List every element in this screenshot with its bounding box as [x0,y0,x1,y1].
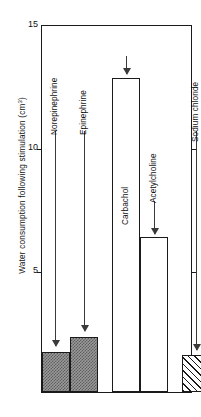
arrow-head [151,228,159,235]
bar-sodium-chloride [182,355,201,392]
arrow-norepinephrine [51,131,60,346]
y-axis-label-close: ) [18,97,27,100]
arrow-head [193,344,201,351]
y-axis-label-text: Water consumption following stimulation … [18,103,27,273]
bar-label-acetylcholine: Acetylcholine [149,153,158,203]
bar-label-carbachol: Carbachol [121,187,130,225]
arrow-head [123,68,131,75]
arrow-sodium-chloride [192,131,201,350]
arrow-carbachol [122,56,131,74]
y-tick-label-10: 10 [18,143,38,152]
y-axis-label-exponent: 3 [17,100,23,104]
bar-carbachol [112,78,140,392]
bar-label-sodium-chloride: Sodium chloride [191,82,200,142]
plot-area: Norepinephrine Epinephrine Carbachol Ace… [41,25,192,393]
arrow-head [52,340,60,347]
bar-acetylcholine [140,237,168,392]
arrow-acetylcholine [150,201,159,234]
y-tick-label-5: 5 [18,266,38,275]
bar-label-norepinephrine: Norepinephrine [50,78,59,135]
y-axis-label: Water consumption following stimulation … [17,35,28,335]
y-tick-label-15: 15 [18,20,38,29]
arrow-epinephrine [80,131,89,331]
bar-epinephrine [70,337,98,392]
tick-mark-left-10 [37,149,42,150]
tick-mark-left-5 [37,272,42,273]
bar-norepinephrine [42,352,70,392]
arrow-head [81,325,89,332]
arrow-shaft [196,131,197,350]
arrow-shaft [84,131,85,331]
bar-chart-figure: Water consumption following stimulation … [0,0,201,417]
arrow-shaft [55,131,56,346]
bar-label-epinephrine: Epinephrine [79,90,88,135]
